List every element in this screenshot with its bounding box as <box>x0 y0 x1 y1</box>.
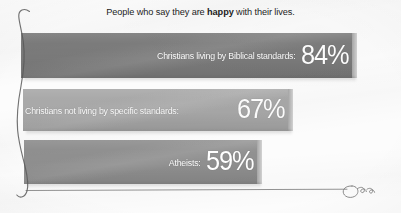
bar-row-2: Christians not living by specific standa… <box>23 89 288 131</box>
flourish-curl <box>343 186 374 197</box>
bar-label-1: Christians living by Biblical standards: <box>157 50 295 61</box>
bar-value-3: 59% <box>206 148 253 175</box>
bar-body-1: Christians living by Biblical standards:… <box>21 33 352 78</box>
chart-page: People who say they are happy with their… <box>0 0 401 213</box>
chart-title: People who say they are happy with their… <box>0 7 401 17</box>
bar-content-1: Christians living by Biblical standards:… <box>21 33 352 78</box>
bar-value-2: 67% <box>237 96 284 123</box>
bar-label-2: Christians not living by specific standa… <box>25 105 179 116</box>
bar-content-2: Christians not living by specific standa… <box>23 89 288 131</box>
bar-body-2: Christians not living by specific standa… <box>23 89 288 131</box>
bar-label-3: Atheists: <box>169 157 201 168</box>
bar-end-cap-1 <box>352 33 357 78</box>
bar-value-1: 84% <box>301 42 348 69</box>
bar-end-cap-3 <box>257 140 262 184</box>
bar-row-1: Christians living by Biblical standards:… <box>21 33 352 78</box>
bar-body-3: Atheists: 59% <box>24 140 257 184</box>
chart-title-before: People who say they are <box>106 7 207 17</box>
bar-row-3: Atheists: 59% <box>24 140 257 184</box>
chart-title-emphasis: happy <box>207 7 234 17</box>
chart-title-after: with their lives. <box>234 7 295 17</box>
bar-content-3: Atheists: 59% <box>24 140 257 184</box>
bar-end-cap-2 <box>288 89 293 131</box>
